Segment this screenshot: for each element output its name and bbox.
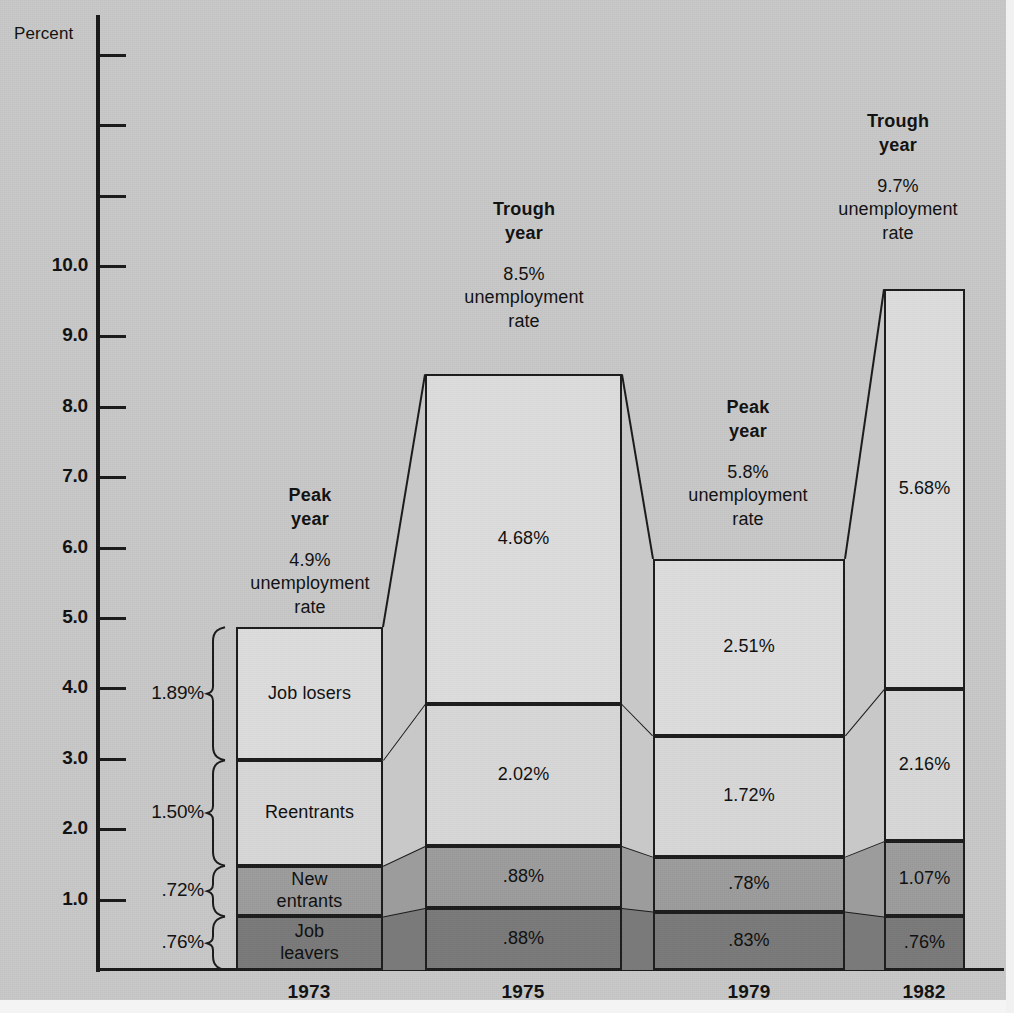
segment-job-leavers-1973[interactable]: Job leavers xyxy=(236,916,383,970)
segment-value-label: Job losers xyxy=(268,683,351,705)
bar-1982[interactable]: .76%1.07%2.16%5.68% xyxy=(884,289,965,970)
page-bottom-edge xyxy=(0,1000,1014,1013)
callout-1973: Peak year4.9% unemployment rate xyxy=(214,484,406,620)
connector-edge xyxy=(845,841,884,856)
connector-band xyxy=(622,704,653,857)
connector-edge xyxy=(845,912,884,917)
segment-value-label: .78% xyxy=(728,873,769,895)
segment-value-label: 2.51% xyxy=(723,636,775,658)
connector-edge xyxy=(622,908,653,912)
segment-value-label: .76% xyxy=(904,932,945,954)
connector-edge xyxy=(622,374,653,558)
segment-job-losers-1979[interactable]: 2.51% xyxy=(653,559,845,736)
connector-band xyxy=(622,846,653,911)
y-axis-tick xyxy=(100,476,126,479)
y-axis-tick-label: 6.0 xyxy=(18,536,88,558)
connector-band xyxy=(383,704,425,866)
segment-new-entrants-1975[interactable]: .88% xyxy=(425,846,622,908)
segment-job-leavers-1982[interactable]: .76% xyxy=(884,916,965,970)
y-axis-tick-label: 10.0 xyxy=(18,254,88,276)
y-axis-tick-label: 9.0 xyxy=(18,324,88,346)
segment-reentrants-1973[interactable]: Reentrants xyxy=(236,760,383,866)
y-axis-tick-label: 2.0 xyxy=(18,817,88,839)
callout-rate-label: 8.5% unemployment rate xyxy=(428,263,620,334)
bar-1973[interactable]: Job leaversNew entrantsReentrantsJob los… xyxy=(236,627,383,970)
segment-value-label: Reentrants xyxy=(265,802,354,824)
callout-phase-label: Trough year xyxy=(800,110,996,158)
connector-band xyxy=(383,846,425,916)
callout-1975: Trough year8.5% unemployment rate xyxy=(428,198,620,334)
segment-value-label: 4.68% xyxy=(498,528,550,550)
y-axis-tick xyxy=(100,828,126,831)
segment-reentrants-1982[interactable]: 2.16% xyxy=(884,689,965,841)
bar-1979[interactable]: .83%.78%1.72%2.51% xyxy=(653,559,845,970)
y-axis-tick xyxy=(100,758,126,761)
y-axis-tick xyxy=(100,547,126,550)
unemployment-stacked-bar-chart: Percent 10.09.08.07.06.05.04.03.02.01.0 … xyxy=(0,0,1014,1013)
callout-1982: Trough year9.7% unemployment rate xyxy=(800,110,996,246)
connector-edge xyxy=(845,289,884,559)
segment-value-label: .88% xyxy=(503,928,544,950)
connector-band xyxy=(622,908,653,970)
segment-reentrants-1975[interactable]: 2.02% xyxy=(425,704,622,846)
connector-edge xyxy=(622,704,653,736)
y-axis-tick xyxy=(100,195,126,198)
y-axis-tick-label: 4.0 xyxy=(18,676,88,698)
callout-phase-label: Peak year xyxy=(650,396,846,444)
brace-new-entrants xyxy=(207,866,225,917)
segment-reentrants-1979[interactable]: 1.72% xyxy=(653,736,845,857)
y-axis-tick xyxy=(100,124,126,127)
segment-value-label: 2.16% xyxy=(899,754,951,776)
y-axis-tick xyxy=(100,617,126,620)
connector-band xyxy=(622,374,653,735)
segment-job-losers-1982[interactable]: 5.68% xyxy=(884,289,965,689)
y-axis-title: Percent xyxy=(14,24,73,44)
connector-edge xyxy=(383,846,425,866)
segment-new-entrants-1979[interactable]: .78% xyxy=(653,857,845,912)
y-axis-tick-label: 8.0 xyxy=(18,395,88,417)
callout-rate-label: 4.9% unemployment rate xyxy=(214,549,406,620)
callout-1979: Peak year5.8% unemployment rate xyxy=(650,396,846,532)
segment-job-leavers-1975[interactable]: .88% xyxy=(425,908,622,970)
callout-rate-label: 5.8% unemployment rate xyxy=(650,461,846,532)
connector-edge xyxy=(622,846,653,857)
segment-value-label: .88% xyxy=(503,866,544,888)
connector-band xyxy=(383,908,425,970)
y-axis-tick xyxy=(100,335,126,338)
segment-value-label: 1.72% xyxy=(723,785,775,807)
callout-rate-label: 9.7% unemployment rate xyxy=(800,175,996,246)
segment-job-losers-1975[interactable]: 4.68% xyxy=(425,374,622,703)
brace-job-losers xyxy=(207,627,225,760)
brace-job-leavers xyxy=(207,916,225,970)
y-axis-tick xyxy=(100,54,126,57)
page-right-edge xyxy=(1006,0,1014,1013)
y-axis-tick-label: 1.0 xyxy=(18,888,88,910)
brace-value-label: .76% xyxy=(120,931,204,953)
callout-phase-label: Peak year xyxy=(214,484,406,532)
brace-reentrants xyxy=(207,760,225,866)
y-axis-tick-label: 3.0 xyxy=(18,747,88,769)
segment-value-label: 1.07% xyxy=(899,868,951,890)
segment-job-losers-1973[interactable]: Job losers xyxy=(236,627,383,760)
y-axis-tick-label: 5.0 xyxy=(18,606,88,628)
connector-edge xyxy=(383,908,425,916)
brace-value-label: 1.89% xyxy=(120,682,204,704)
brace-value-label: .72% xyxy=(120,879,204,901)
connector-band xyxy=(845,689,884,857)
segment-value-label: 5.68% xyxy=(899,478,951,500)
segment-new-entrants-1973[interactable]: New entrants xyxy=(236,866,383,917)
connector-edge xyxy=(845,689,884,735)
segment-job-leavers-1979[interactable]: .83% xyxy=(653,912,845,970)
segment-value-label: New entrants xyxy=(277,869,343,913)
y-axis-tick xyxy=(100,406,126,409)
connector-edge xyxy=(383,704,425,760)
brace-value-label: 1.50% xyxy=(120,801,204,823)
segment-new-entrants-1982[interactable]: 1.07% xyxy=(884,841,965,916)
segment-value-label: 2.02% xyxy=(498,764,550,786)
bar-1975[interactable]: .88%.88%2.02%4.68% xyxy=(425,374,622,970)
segment-value-label: Job leavers xyxy=(280,921,339,965)
connector-band xyxy=(845,912,884,970)
connector-band xyxy=(845,289,884,735)
connector-band xyxy=(845,841,884,916)
segment-value-label: .83% xyxy=(728,930,769,952)
